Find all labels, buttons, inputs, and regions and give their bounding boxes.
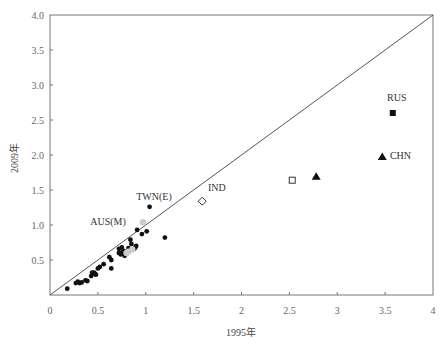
y-tick-label: 3.0 (32, 80, 45, 91)
y-tick-label: 1.0 (32, 220, 45, 231)
x-tick-label: 0.5 (92, 305, 105, 316)
y-tick-label: 4.0 (32, 10, 45, 21)
point-filled-circle (97, 265, 102, 270)
point-label: RUS (387, 92, 406, 103)
point-grey-circle (123, 250, 129, 256)
point-filled-square (390, 110, 396, 116)
point-filled-circle (140, 232, 145, 237)
x-tick-label: 3 (335, 305, 340, 316)
y-axis-title: 2009年 (8, 143, 20, 173)
point-label: IND (208, 182, 226, 193)
x-tick-label: 0 (48, 305, 53, 316)
point-filled-circle (65, 286, 70, 291)
diagonal-reference-line (50, 15, 433, 295)
axes: 00.511.522.533.540.51.01.52.02.53.03.54.… (32, 10, 436, 317)
x-axis-title: 1995年 (226, 326, 256, 338)
point-label: TWN(E) (136, 191, 172, 203)
x-tick-label: 1 (143, 305, 148, 316)
point-filled-triangle (312, 172, 321, 180)
y-tick-label: 2.0 (32, 150, 45, 161)
data-points (65, 110, 396, 291)
point-open-square (289, 177, 295, 183)
point-filled-circle (144, 229, 149, 234)
point-open-diamond (198, 197, 206, 205)
x-tick-label: 2 (239, 305, 244, 316)
point-label: AUS(M) (90, 216, 126, 228)
y-tick-label: 1.5 (32, 185, 45, 196)
point-filled-circle (147, 204, 152, 209)
point-filled-circle (94, 272, 99, 277)
y-tick-label: 3.5 (32, 45, 45, 56)
point-filled-circle (109, 266, 114, 271)
point-filled-circle (109, 258, 114, 263)
point-labels: TWN(E)AUS(M)INDRUSCHN (90, 92, 411, 228)
point-filled-circle (135, 228, 140, 233)
point-filled-circle (163, 235, 168, 240)
point-grey-circle (129, 246, 135, 252)
point-filled-triangle (378, 153, 387, 161)
point-filled-circle (85, 279, 90, 284)
y-tick-label: 2.5 (32, 115, 45, 126)
point-filled-circle (128, 237, 133, 242)
x-tick-label: 3.5 (379, 305, 392, 316)
x-tick-label: 2.5 (283, 305, 296, 316)
scatter-chart: 00.511.522.533.540.51.01.52.02.53.03.54.… (0, 0, 446, 347)
x-tick-label: 4 (431, 305, 436, 316)
y-tick-label: 0.5 (32, 255, 45, 266)
diagonal-line (50, 15, 433, 295)
point-grey-circle (140, 219, 146, 225)
point-label: CHN (390, 150, 411, 161)
point-filled-circle (101, 262, 106, 267)
point-filled-circle (129, 242, 134, 247)
x-tick-label: 1.5 (187, 305, 200, 316)
